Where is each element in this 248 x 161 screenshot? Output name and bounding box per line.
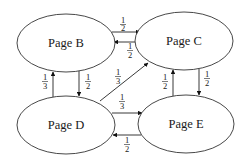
svg-text:3: 3 [120,101,124,111]
node-label: Page C [166,34,202,48]
weight-c-to-e: 1 2 [204,69,210,88]
svg-text:2: 2 [128,50,132,60]
svg-text:2: 2 [121,23,125,33]
svg-text:2: 2 [125,144,129,154]
svg-text:2: 2 [205,78,209,88]
node-page-b: Page B [17,14,115,72]
node-page-c: Page C [135,12,233,70]
svg-text:3: 3 [116,76,120,86]
svg-text:2: 2 [163,81,167,91]
weight-c-to-b: 1 2 [127,41,133,60]
weight-d-to-c: 1 3 [115,67,121,86]
page-link-graph: Page B Page C Page D Page E 1 2 1 2 1 3 [0,0,248,161]
weight-e-to-d: 1 2 [124,135,130,154]
weight-d-to-e: 1 3 [119,92,125,111]
node-label: Page D [48,118,84,132]
node-label: Page B [48,36,84,50]
weight-d-to-b: 1 3 [42,72,48,91]
svg-text:2: 2 [86,81,90,91]
weight-b-to-c: 1 2 [120,15,126,33]
node-label: Page E [168,117,203,131]
node-page-e: Page E [138,95,234,153]
svg-text:3: 3 [43,81,47,91]
weight-e-to-c: 1 2 [162,72,168,91]
weight-b-to-d: 1 2 [85,72,91,91]
node-page-d: Page D [17,96,115,154]
